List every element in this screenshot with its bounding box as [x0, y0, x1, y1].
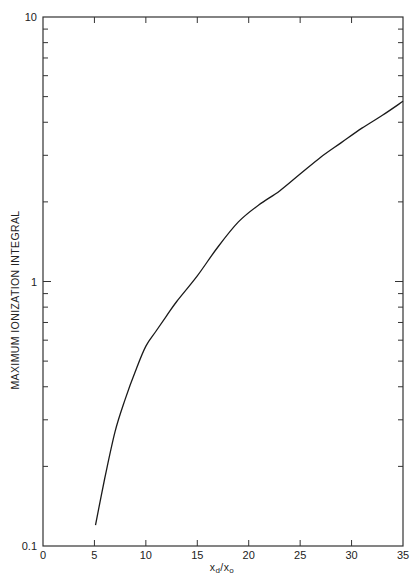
data-line	[96, 101, 404, 525]
y-axis-ticks	[43, 29, 403, 466]
x-axis-tick-labels: 05101520253035	[40, 549, 409, 561]
x-tick-label: 20	[243, 549, 255, 561]
x-tick-label: 0	[40, 549, 46, 561]
x-tick-label: 5	[91, 549, 97, 561]
x-tick-label: 35	[397, 549, 409, 561]
plot-frame	[43, 17, 403, 546]
y-axis-title: MAXIMUM IONIZATION INTEGRAL	[9, 210, 21, 389]
x-tick-label: 25	[294, 549, 306, 561]
x-tick-label: 15	[191, 549, 203, 561]
y-tick-label: 10	[25, 11, 37, 23]
x-axis-title: xd/xo	[210, 561, 234, 575]
y-tick-label: 0.1	[22, 540, 37, 552]
x-tick-label: 10	[140, 549, 152, 561]
plot-border	[43, 17, 403, 546]
chart: 05101520253035 0.1110 xd/xo MAXIMUM IONI…	[0, 0, 417, 579]
x-tick-label: 30	[345, 549, 357, 561]
y-tick-label: 1	[31, 276, 37, 288]
y-axis-tick-labels: 0.1110	[22, 11, 37, 552]
x-axis-ticks	[94, 17, 351, 546]
